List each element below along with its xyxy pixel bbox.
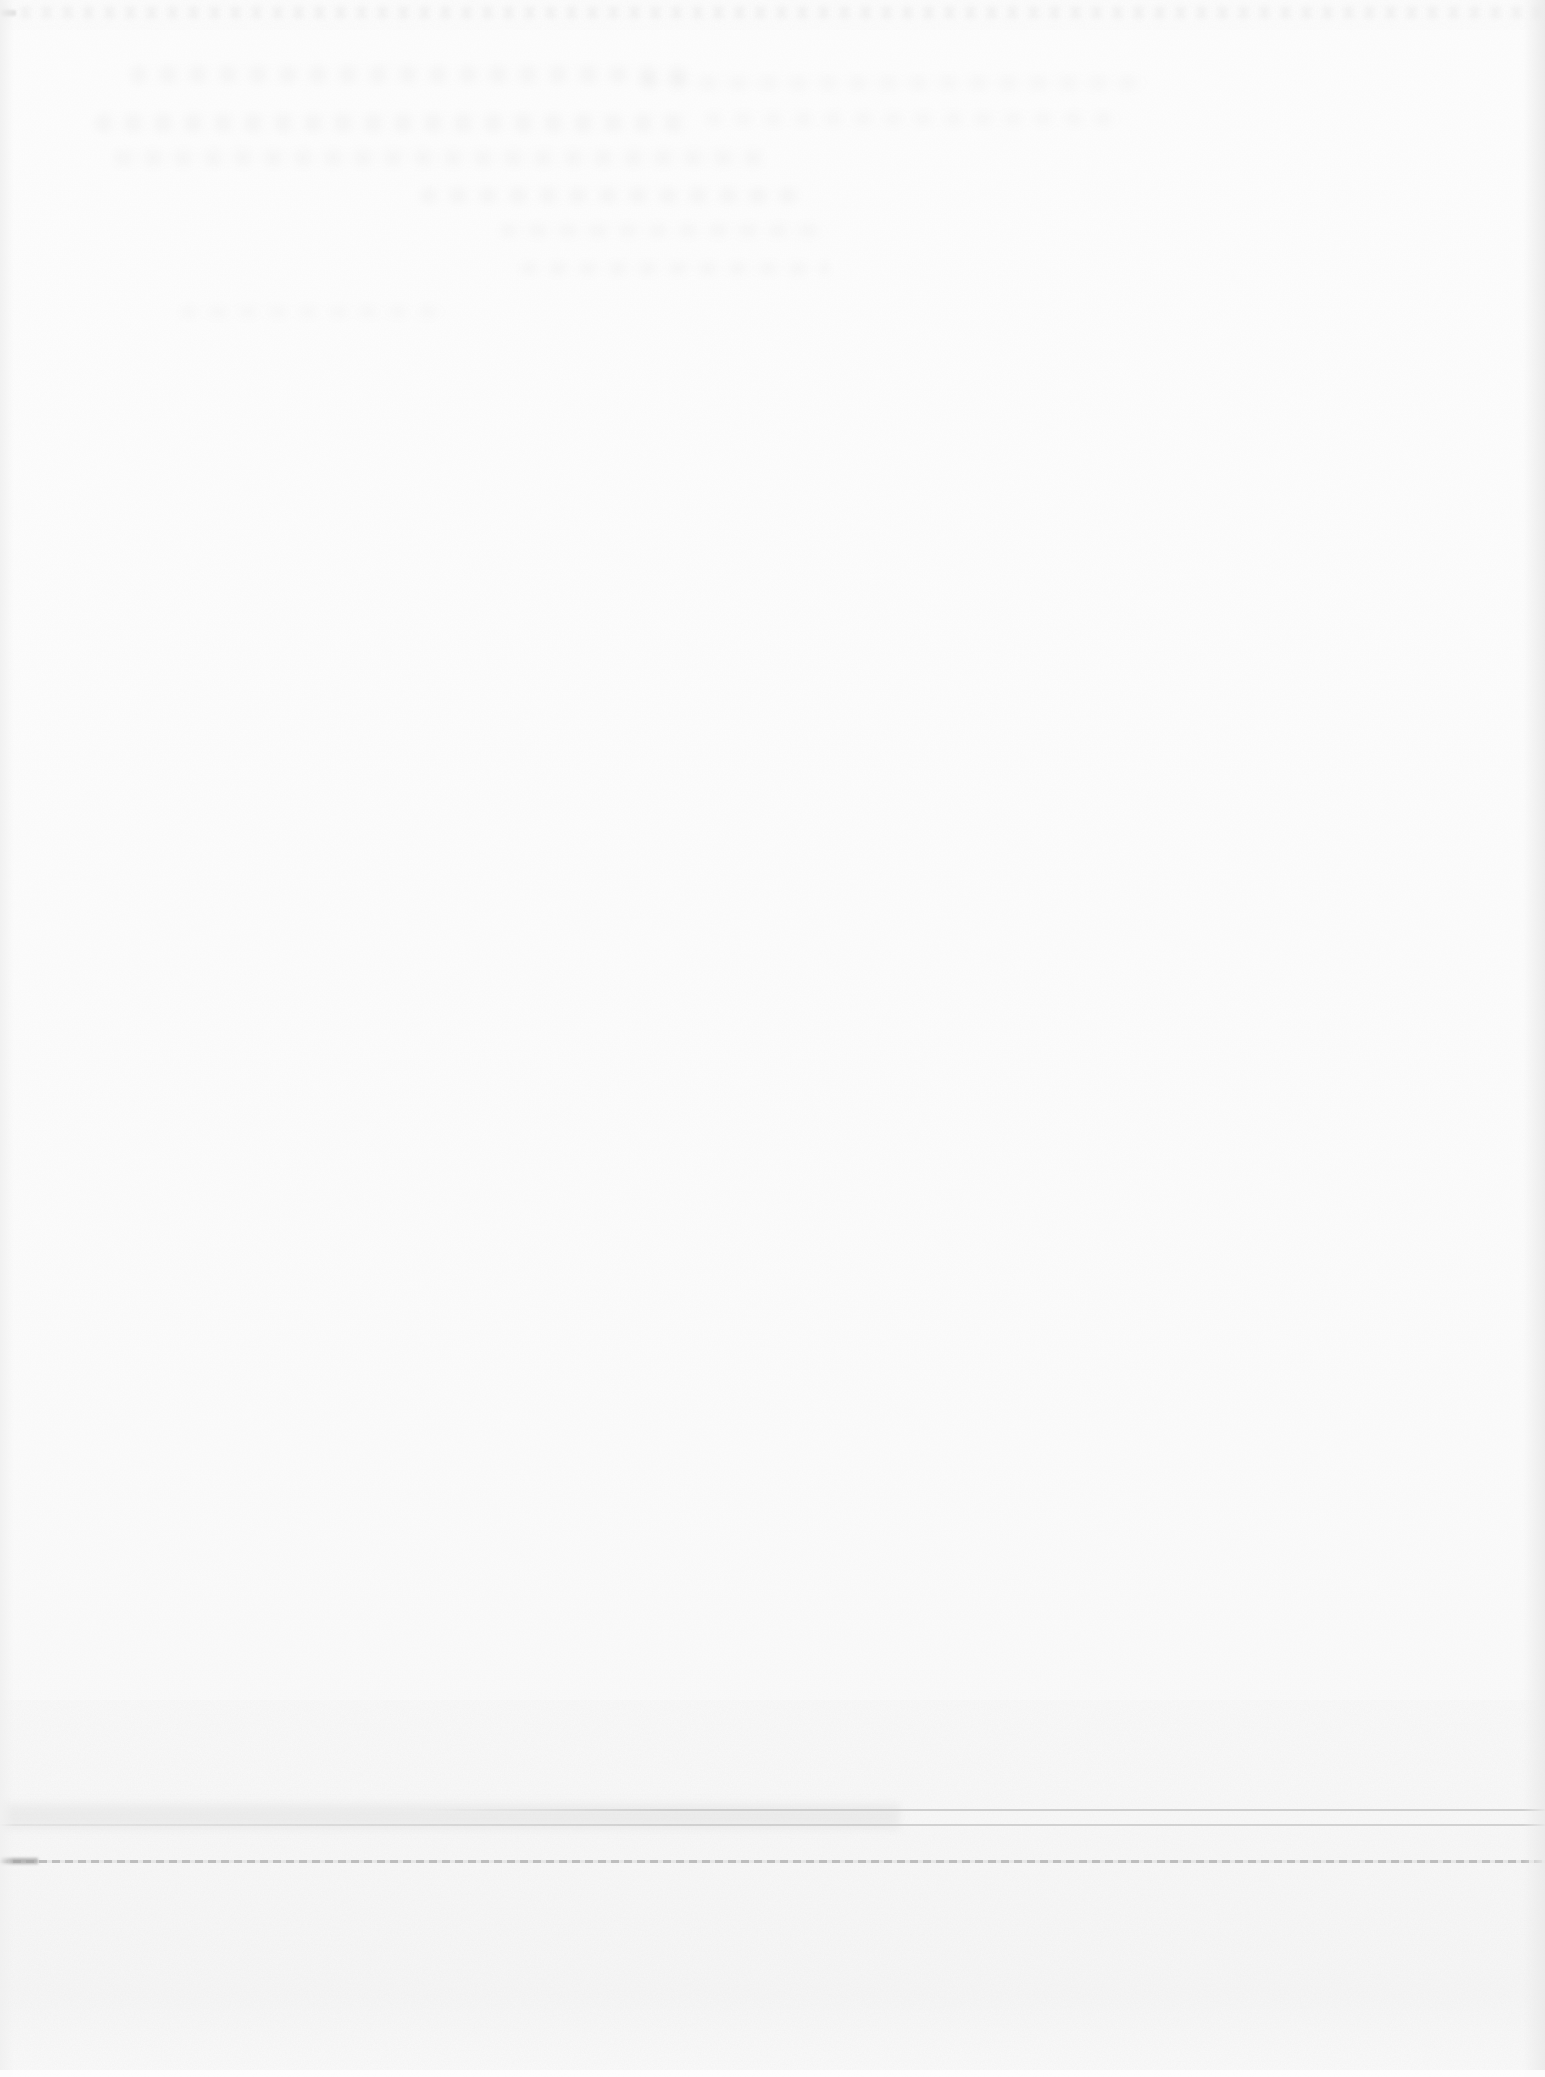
bottom-edge-highlight [0, 2070, 1545, 2077]
dark-rule [0, 1860, 1545, 1863]
ghost-smudge [640, 76, 1150, 90]
ghost-smudge [180, 306, 450, 318]
ghost-smudge [130, 66, 690, 83]
ghost-smudge [705, 112, 1125, 126]
left-edge-shading [0, 0, 14, 2077]
ghost-smudge [420, 188, 810, 203]
ghost-smudge [500, 224, 830, 237]
right-edge-shading [1523, 0, 1545, 2077]
top-speckle-band [0, 6, 1545, 19]
faint-rule-lower [0, 1824, 1545, 1826]
ghost-smudge [95, 114, 695, 132]
ghost-smudge [520, 262, 830, 275]
ghost-smudge [115, 150, 765, 166]
scanned-blank-page [0, 0, 1545, 2077]
faint-rule-upper [420, 1809, 1545, 1811]
